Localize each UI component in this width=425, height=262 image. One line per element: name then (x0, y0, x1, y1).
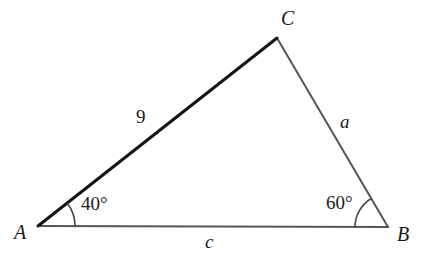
side-label-ab: c (205, 232, 213, 251)
vertex-label-b: B (397, 224, 409, 244)
angle-label-b: 60° (326, 193, 353, 212)
side-ac-line (38, 38, 277, 226)
triangle-figure: A B C 9 a c 40° 60° (0, 0, 425, 262)
vertex-label-c: C (281, 8, 294, 28)
angle-b-arc (355, 199, 371, 227)
angle-label-a: 40° (81, 194, 108, 213)
triangle-drawing (0, 0, 425, 262)
side-label-cb: a (340, 112, 350, 131)
vertex-label-a: A (14, 222, 26, 242)
side-ab-line (38, 226, 388, 227)
side-label-ac: 9 (136, 107, 146, 126)
angle-a-arc (67, 203, 75, 226)
